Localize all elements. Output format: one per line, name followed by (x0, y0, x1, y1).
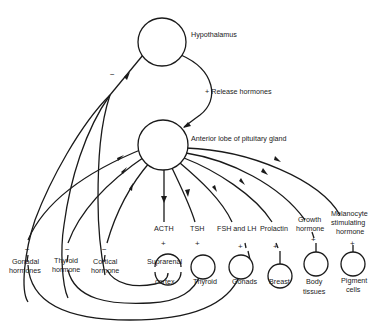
hypothalamus-label: Hypothalamus (191, 30, 237, 39)
thyroid-node-label: Thyroid (193, 277, 217, 286)
msh-label-3: hormone (336, 227, 364, 236)
pigment-label: Pigment (341, 276, 367, 285)
breast-label: Breast (269, 277, 290, 286)
arrowhead-icon (274, 156, 281, 162)
acth-label: ACTH (154, 224, 174, 233)
msh-plus-sign: + (350, 239, 355, 248)
arrowhead-icon (261, 168, 268, 175)
gonadal-minus-sign: − (25, 245, 30, 254)
arrowhead-icon (239, 178, 245, 185)
tsh-plus-sign: + (195, 239, 200, 248)
arrowhead-icon (185, 189, 190, 197)
gonadal-hormones-label-2: hormones (9, 266, 41, 275)
acth-plus-sign: + (161, 239, 166, 248)
growth-hormone-label-1: Growth (298, 215, 321, 224)
tsh-arrow (172, 168, 195, 222)
cortical-to-pituitary (107, 162, 150, 243)
fsh-plus-sign: + (238, 242, 243, 251)
cortical-minus-sign: − (102, 245, 107, 254)
thyroid-hormone-label-1: Thyroid (54, 256, 78, 265)
gonads-node (229, 255, 253, 279)
arrowhead-icon (212, 185, 217, 192)
tsh-label: TSH (190, 224, 204, 233)
growth-hormone-label-2: hormone (296, 224, 324, 233)
thyroid-hormone-label-2: hormone (52, 265, 80, 274)
cells-label: cells (346, 285, 361, 294)
thyroid-node (191, 255, 215, 279)
prolactin-plus-sign: + (273, 242, 278, 251)
gonadal-hormones-label-1: Gonadal (12, 257, 40, 266)
hypothalamus-node (138, 18, 186, 66)
growth-plus-sign: + (311, 235, 316, 244)
body-label: Body (306, 277, 323, 286)
msh-label-1: Melanocyte (331, 209, 368, 218)
pigment-cells-node (341, 252, 365, 276)
arrowhead-icon (161, 196, 167, 203)
negative-feedback-sign: − (110, 70, 115, 79)
fsh-lh-label: FSH and LH (217, 224, 257, 233)
prolactin-label: Prolactin (260, 224, 288, 233)
tissues-label: tissues (303, 287, 326, 296)
growth-hormone-arrow (186, 153, 305, 220)
anterior-pituitary-label: Anterior lobe of pituitary gland (191, 134, 287, 143)
fsh-stem (245, 243, 246, 248)
suprarenal-label: Suprarenal (147, 257, 183, 266)
endocrine-feedback-diagram: Hypothalamus + Release hormones Anterior… (0, 0, 379, 333)
anterior-pituitary-node (138, 120, 188, 170)
msh-label-2: stimulating (331, 218, 365, 227)
prolactin-arrow (184, 158, 272, 222)
gonads-label: Gonads (232, 277, 258, 286)
release-hormones-label: + Release hormones (205, 87, 272, 96)
cortical-hormone-label-1: Cortical (93, 257, 118, 266)
body-tissues-node (304, 252, 328, 276)
thyroid-to-pituitary (68, 155, 147, 243)
thyroid-minus-sign: − (65, 245, 70, 254)
cortex-label: cortex (155, 277, 175, 286)
cortical-hormone-label-2: hormone (91, 266, 119, 275)
